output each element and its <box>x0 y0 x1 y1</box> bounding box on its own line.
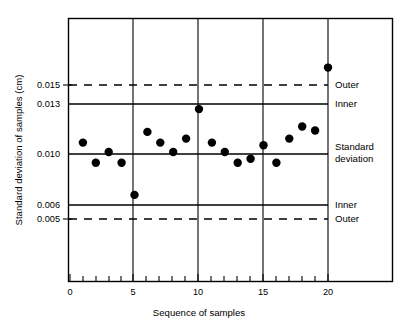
annotation-standard-line1: Standard <box>335 141 374 152</box>
data-point <box>143 128 151 136</box>
xtick-label-0: 0 <box>67 287 72 297</box>
data-point <box>105 148 113 156</box>
data-point <box>285 134 293 142</box>
annotation-inner-lower: Inner <box>335 199 358 210</box>
data-point <box>79 138 87 146</box>
annotation-inner-upper: Inner <box>335 98 358 109</box>
data-point <box>182 134 190 142</box>
xtick-label-20: 20 <box>323 287 333 297</box>
xtick-label-15: 15 <box>258 287 268 297</box>
data-point <box>195 105 203 113</box>
data-point <box>311 126 319 134</box>
data-point <box>130 191 138 199</box>
data-point <box>169 148 177 156</box>
control-limit-lines <box>63 85 328 219</box>
ytick-label-0006: 0.006 <box>37 200 60 210</box>
x-axis-ticks <box>70 274 328 281</box>
chart-canvas: 0.015 0.013 0.010 0.006 0.005 Outer Inne… <box>0 0 413 332</box>
annotation-outer-upper: Outer <box>335 79 360 90</box>
vertical-gridlines <box>133 19 328 281</box>
data-point <box>246 155 254 163</box>
ytick-label-0015: 0.015 <box>37 80 60 90</box>
data-point-group <box>79 63 332 199</box>
data-point <box>221 148 229 156</box>
data-point <box>156 138 164 146</box>
annotation-standard-line2: deviation <box>335 153 373 164</box>
data-point <box>234 159 242 167</box>
ytick-label-0010: 0.010 <box>37 149 60 159</box>
data-point <box>259 141 267 149</box>
data-point <box>92 159 100 167</box>
ytick-label-0005: 0.005 <box>37 214 60 224</box>
control-zone-annotations: Outer Inner Standard deviation Inner Out… <box>335 79 374 224</box>
data-point <box>324 63 332 71</box>
data-point <box>208 138 216 146</box>
xtick-label-10: 10 <box>193 287 203 297</box>
annotation-outer-lower: Outer <box>335 213 360 224</box>
data-point <box>272 159 280 167</box>
y-axis-tick-labels: 0.015 0.013 0.010 0.006 0.005 <box>37 80 60 224</box>
data-point <box>298 122 306 130</box>
x-axis-title: Sequence of samples <box>153 307 245 318</box>
data-point <box>117 159 125 167</box>
x-axis-tick-labels: 0 5 10 15 20 <box>67 287 333 297</box>
control-chart: 0.015 0.013 0.010 0.006 0.005 Outer Inne… <box>0 0 413 332</box>
y-axis-title: Standard deviation of samples (cm) <box>13 75 24 226</box>
ytick-label-0013: 0.013 <box>37 99 60 109</box>
xtick-label-5: 5 <box>130 287 135 297</box>
